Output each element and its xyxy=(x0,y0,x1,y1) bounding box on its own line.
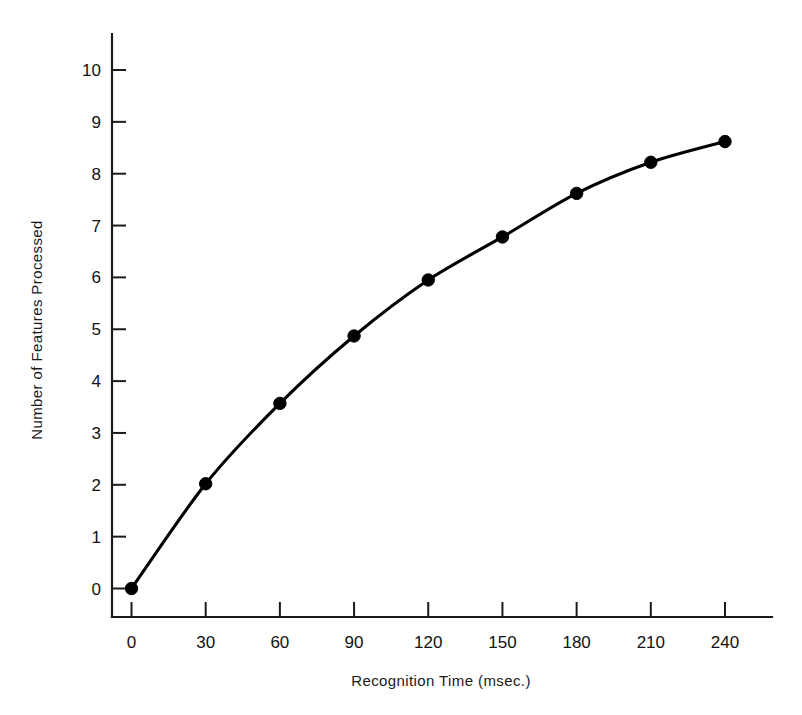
y-tick-label-8: 8 xyxy=(92,165,101,184)
data-point-60 xyxy=(274,397,286,409)
y-axis-title: Number of Features Processed xyxy=(28,220,45,440)
data-point-120 xyxy=(422,274,434,286)
y-tick-label-1: 1 xyxy=(92,528,101,547)
data-point-180 xyxy=(570,187,582,199)
x-tick-label-60: 60 xyxy=(270,633,289,652)
y-tick-label-6: 6 xyxy=(92,268,101,287)
y-tick-label-4: 4 xyxy=(92,372,101,391)
x-tick-label-90: 90 xyxy=(345,633,364,652)
y-tick-label-5: 5 xyxy=(92,320,101,339)
x-tick-label-210: 210 xyxy=(637,633,665,652)
y-tick-label-10: 10 xyxy=(82,61,101,80)
x-tick-label-120: 120 xyxy=(414,633,442,652)
x-axis-title: Recognition Time (msec.) xyxy=(351,672,531,689)
line-chart: 012345678910 0306090120150180210240 Reco… xyxy=(0,0,802,715)
y-tick-label-9: 9 xyxy=(92,113,101,132)
x-tick-label-240: 240 xyxy=(711,633,739,652)
data-point-0 xyxy=(125,582,137,594)
x-tick-label-150: 150 xyxy=(488,633,516,652)
y-tick-label-7: 7 xyxy=(92,217,101,236)
data-point-90 xyxy=(348,330,360,342)
y-tick-label-2: 2 xyxy=(92,476,101,495)
data-point-150 xyxy=(496,231,508,243)
data-point-210 xyxy=(645,156,657,168)
x-tick-label-180: 180 xyxy=(562,633,590,652)
y-tick-label-3: 3 xyxy=(92,424,101,443)
chart-background xyxy=(0,0,802,715)
y-tick-label-0: 0 xyxy=(92,580,101,599)
data-point-240 xyxy=(719,135,731,147)
x-tick-label-0: 0 xyxy=(127,633,136,652)
x-tick-label-30: 30 xyxy=(196,633,215,652)
data-point-30 xyxy=(199,478,211,490)
